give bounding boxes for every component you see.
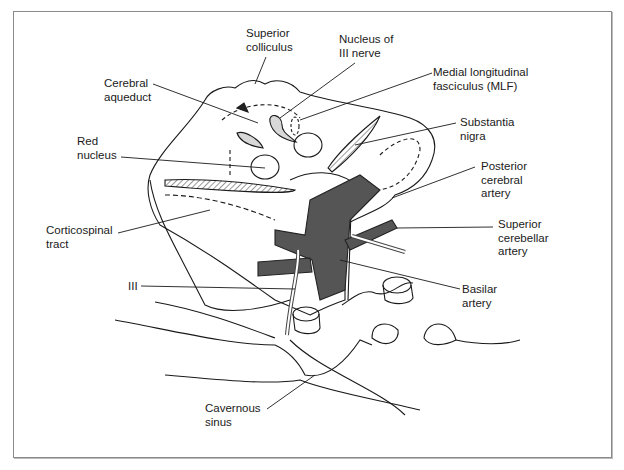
label-corticospinal-tract: Corticospinal tract [46,224,112,251]
label-cavernous-sinus: Cavernous sinus [205,402,261,429]
label-superior-colliculus: Superior colliculus [246,27,293,54]
label-medial-longitudinal-fasciculus: Medial longitudinal fasciculus (MLF) [433,66,528,93]
label-basilar-artery: Basilar artery [462,283,497,310]
midbrain-outline [148,81,435,315]
label-substantia-nigra: Substantia nigra [460,116,514,143]
leader-superior-colliculus [255,57,266,84]
label-superior-cerebellar-artery: Superior cerebellar artery [498,218,549,259]
leader-cavernous-sinus [267,375,315,409]
leader-basilar [340,260,460,289]
leader-sca [397,227,493,228]
label-red-nucleus: Red nucleus [77,135,117,162]
label-cerebral-aqueduct: Cerebral aqueduct [104,77,151,104]
label-iii: III [128,280,138,294]
label-posterior-cerebral-artery: Posterior cerebral artery [481,160,527,201]
label-nucleus-of-iii-nerve: Nucleus of III nerve [339,33,393,60]
